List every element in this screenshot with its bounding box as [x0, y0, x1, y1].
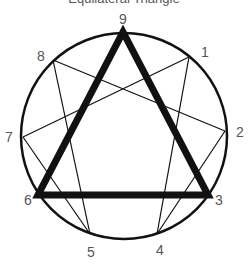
- diagram-title: Equilateral Triangle: [0, 0, 248, 6]
- point-label-5: 5: [87, 244, 95, 260]
- point-label-4: 4: [156, 242, 164, 258]
- point-label-3: 3: [215, 192, 223, 208]
- outer-circle: [21, 33, 227, 239]
- point-label-7: 7: [5, 129, 13, 145]
- point-label-1: 1: [201, 44, 209, 60]
- enneagram-svg: 912345678: [0, 0, 248, 269]
- point-label-9: 9: [119, 11, 127, 27]
- enneagram-diagram: Equilateral Triangle 912345678: [0, 0, 248, 269]
- point-labels: 912345678: [5, 11, 244, 260]
- point-label-2: 2: [236, 124, 244, 140]
- hexad-lines: [23, 57, 225, 234]
- point-label-8: 8: [37, 48, 45, 64]
- point-label-6: 6: [24, 192, 32, 208]
